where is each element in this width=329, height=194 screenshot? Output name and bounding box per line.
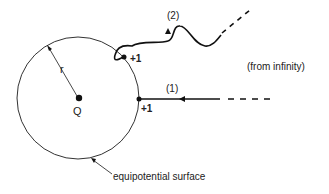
path1-charge-label: +1 xyxy=(141,103,153,114)
path2-arrowhead-icon xyxy=(165,28,171,34)
radius-label: r xyxy=(60,63,64,75)
surface-pointer-line xyxy=(93,160,112,174)
from-infinity-label: (from infinity) xyxy=(247,61,305,72)
charge-q-label: Q xyxy=(73,105,82,117)
surface-arrowhead-icon xyxy=(91,158,96,163)
path1-label: (1) xyxy=(166,83,178,94)
path2-test-charge-dot xyxy=(122,55,127,60)
path2-dashed xyxy=(222,10,250,33)
path1-test-charge-dot xyxy=(137,97,142,102)
path2-label: (2) xyxy=(167,10,179,21)
diagram-canvas: Q r (1) +1 (2) +1 (from infinity) equipo… xyxy=(0,0,329,194)
surface-label: equipotential surface xyxy=(113,171,206,182)
path1-arrowhead-icon xyxy=(179,96,185,102)
path2-charge-label: +1 xyxy=(130,53,142,64)
radius-arrowhead-icon xyxy=(47,45,52,51)
